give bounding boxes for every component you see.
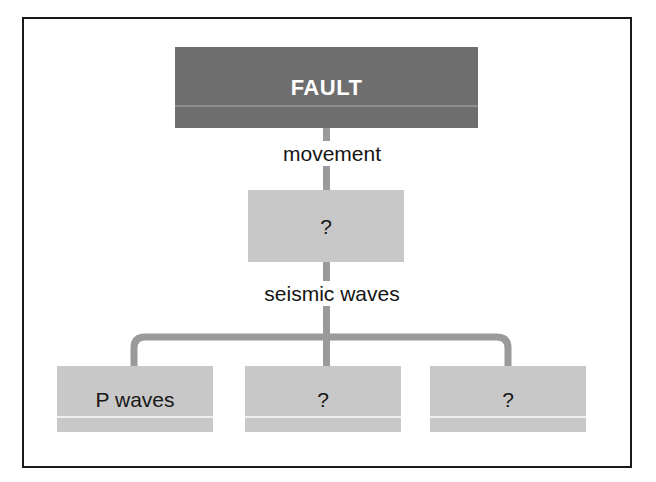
node-middle-unknown[interactable]: ? xyxy=(248,190,404,262)
node-fault[interactable]: FAULT xyxy=(175,47,478,128)
node-center-unknown-rule xyxy=(245,416,401,418)
node-right-unknown-label: ? xyxy=(502,389,514,410)
node-p-waves[interactable]: P waves xyxy=(57,366,213,432)
node-middle-unknown-label: ? xyxy=(320,216,332,237)
node-right-unknown[interactable]: ? xyxy=(430,366,586,432)
node-p-waves-label: P waves xyxy=(96,389,175,410)
node-center-unknown-label: ? xyxy=(317,389,329,410)
node-center-unknown[interactable]: ? xyxy=(245,366,401,432)
node-fault-rule xyxy=(175,105,478,107)
node-fault-label: FAULT xyxy=(291,77,363,99)
edge-label-movement: movement xyxy=(262,141,402,166)
diagram-canvas: FAULT movement ? seismic waves P waves ?… xyxy=(0,0,656,482)
edge-label-seismic-waves: seismic waves xyxy=(240,281,424,306)
node-p-waves-rule xyxy=(57,416,213,418)
node-right-unknown-rule xyxy=(430,416,586,418)
